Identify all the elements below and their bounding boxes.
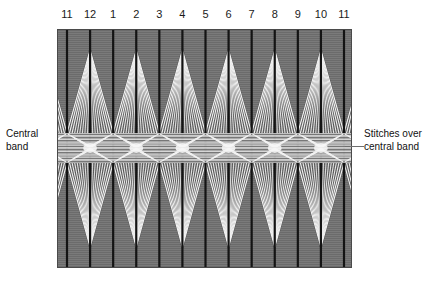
column-label-2: 1 [110, 6, 116, 22]
column-label-1: 12 [84, 6, 96, 22]
column-label-10: 9 [295, 6, 301, 22]
column-label-8: 7 [249, 6, 255, 22]
annotation-central-band: Central band [6, 128, 54, 153]
annotation-stitches-over-central-band: Stitches over central band [364, 128, 430, 153]
column-label-0: 11 [61, 6, 72, 22]
column-label-12: 11 [338, 6, 349, 22]
column-label-11: 10 [315, 6, 327, 22]
column-label-3: 2 [133, 6, 139, 22]
column-label-5: 4 [179, 6, 185, 22]
stitch-pattern-panel [57, 29, 352, 268]
column-label-9: 8 [272, 6, 278, 22]
leader-line-right [345, 146, 364, 147]
column-label-4: 3 [156, 6, 162, 22]
column-label-6: 5 [202, 6, 208, 22]
stitch-pattern-graphic [57, 29, 352, 268]
figure-root: 11121234567891011 Central band Stitches … [0, 0, 431, 281]
column-label-7: 6 [226, 6, 232, 22]
column-number-labels: 11121234567891011 [57, 6, 352, 22]
